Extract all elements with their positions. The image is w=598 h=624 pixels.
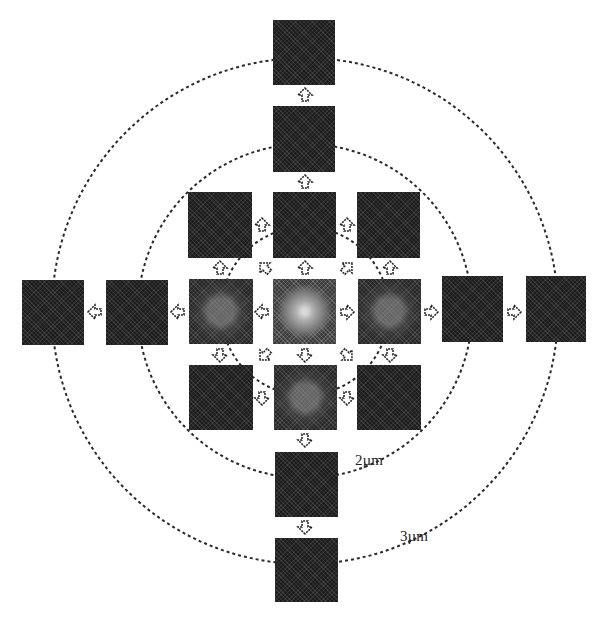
arrow-icon [425, 305, 438, 319]
arrow-icon [298, 261, 312, 274]
arrow-icon [255, 305, 268, 319]
arrow-icon [340, 392, 354, 405]
arrow-icon [255, 392, 269, 405]
ring-label-2um: 2µm [355, 452, 383, 469]
arrow-icon [298, 521, 312, 534]
propagation-diagram: 2µm 3µm [0, 0, 598, 624]
arrow-icon [255, 258, 274, 277]
arrow-icon [213, 349, 227, 362]
arrow-icon [340, 218, 354, 231]
arrow-icon [298, 175, 312, 188]
arrow-icon [338, 258, 357, 277]
ring-label-3um: 3µm [400, 528, 428, 545]
arrow-icon [88, 305, 101, 319]
arrow-icon [508, 305, 521, 319]
arrow-icon [338, 346, 357, 365]
arrow-icon [298, 434, 312, 447]
arrow-icon [298, 88, 312, 101]
arrow-icon [341, 305, 354, 319]
arrow-icon [383, 261, 397, 274]
arrow-icon [213, 261, 227, 274]
arrow-icon [298, 349, 312, 362]
arrow-icon [171, 305, 184, 319]
arrow-icon [255, 218, 269, 231]
arrow-icon [255, 346, 274, 365]
arrow-icon [383, 349, 397, 362]
arrow-layer [0, 0, 598, 624]
